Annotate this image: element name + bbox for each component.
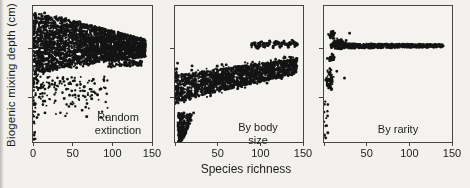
panel-annotation: Random extinction [95, 111, 141, 137]
x-tick [366, 142, 367, 146]
x-tick-label: 100 [251, 147, 269, 159]
x-tick [409, 142, 410, 146]
y-tick [28, 97, 32, 98]
y-tick [319, 97, 323, 98]
x-tick-label: 100 [400, 147, 418, 159]
x-tick [452, 142, 453, 146]
x-tick [72, 142, 73, 146]
y-tick [28, 48, 32, 49]
x-tick [33, 142, 34, 146]
x-tick [324, 142, 325, 146]
scatter-canvas-by-rarity [324, 6, 452, 142]
panel-by-rarity: By rarity [323, 5, 453, 143]
x-tick [303, 142, 304, 146]
x-tick-label: 150 [294, 147, 312, 159]
x-tick [260, 142, 261, 146]
figure: Biogenic mixing depth (cm) Random extinc… [0, 0, 470, 188]
x-tick-label: 0 [30, 147, 36, 159]
x-axis-label: Species richness [201, 162, 292, 176]
x-tick-label: 50 [67, 147, 79, 159]
y-tick [170, 97, 174, 98]
panel-annotation: By rarity [378, 123, 418, 136]
x-tick [217, 142, 218, 146]
x-tick-label: 100 [103, 147, 121, 159]
x-tick-label: 50 [361, 147, 373, 159]
x-tick [175, 142, 176, 146]
panel-by-body-size: By body size [174, 5, 304, 143]
panel-annotation: By body size [236, 121, 281, 147]
y-axis-label: Biogenic mixing depth (cm) [5, 3, 17, 147]
y-tick [319, 48, 323, 49]
x-tick [152, 142, 153, 146]
y-tick [170, 48, 174, 49]
x-tick-label: 150 [143, 147, 161, 159]
panel-random-extinction: Random extinction [32, 5, 153, 143]
x-tick [112, 142, 113, 146]
x-tick-label: 150 [443, 147, 461, 159]
scan-edge-shadow [0, 0, 4, 188]
x-tick-label: 50 [212, 147, 224, 159]
